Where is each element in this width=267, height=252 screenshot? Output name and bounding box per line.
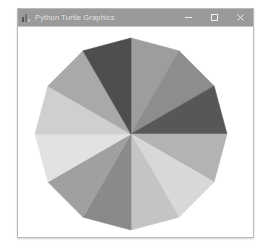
turtle-graphics-window: Python Turtle Graphics	[17, 8, 254, 238]
window-titlebar[interactable]: Python Turtle Graphics	[18, 9, 253, 26]
window-title: Python Turtle Graphics	[35, 9, 115, 26]
turtle-canvas-area[interactable]	[18, 26, 253, 237]
close-button[interactable]	[227, 9, 253, 26]
python-turtle-icon	[22, 13, 31, 22]
window-controls	[175, 9, 253, 26]
minimize-button[interactable]	[175, 9, 201, 26]
pinwheel-dodecagon	[18, 27, 253, 237]
maximize-button[interactable]	[201, 9, 227, 26]
